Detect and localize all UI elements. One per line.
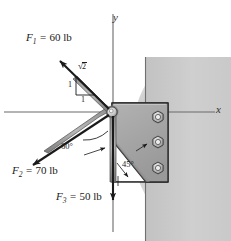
f2-magnitude: 70	[35, 164, 46, 176]
force-vector-f2	[33, 115, 109, 165]
f2-shaft	[44, 108, 110, 153]
force-label-f2: F2 = 70 lb	[12, 165, 58, 179]
force-label-f3: F3 = 50 lb	[56, 191, 102, 205]
force-label-f1: F1 = 60 lb	[26, 32, 72, 46]
f1-unit: lb	[63, 31, 72, 43]
slope-hypotenuse-value: 2	[82, 62, 87, 71]
f3-equals: =	[66, 190, 79, 202]
slope-hypotenuse-label: √2	[78, 62, 87, 71]
bolt-2	[152, 136, 165, 149]
angle-label-45: 45°	[122, 160, 134, 169]
bolt-group	[152, 111, 165, 175]
f2-unit: lb	[49, 164, 58, 176]
f3-symbol: F	[56, 190, 63, 202]
f1-magnitude: 60	[49, 31, 60, 43]
f3-unit: lb	[93, 190, 102, 202]
y-axis-label: y	[113, 12, 118, 23]
angle-label-60: 60°	[61, 142, 73, 151]
statics-force-diagram: y x F1 = 60 lb F2 = 70 lb F3 = 50 lb √2 …	[0, 0, 231, 241]
bolt-1	[152, 111, 165, 124]
f2-equals: =	[22, 164, 35, 176]
slope-horizontal-label: 1	[81, 96, 85, 104]
bolt-3	[152, 162, 165, 175]
angle-arc-60	[83, 131, 108, 140]
angle-leader-60	[84, 148, 105, 155]
f3-magnitude: 50	[79, 190, 90, 202]
f1-equals: =	[36, 31, 49, 43]
slope-vertical-label: 1	[68, 81, 72, 89]
x-axis-label: x	[216, 104, 221, 115]
f1-symbol: F	[26, 31, 33, 43]
f2-symbol: F	[12, 164, 19, 176]
